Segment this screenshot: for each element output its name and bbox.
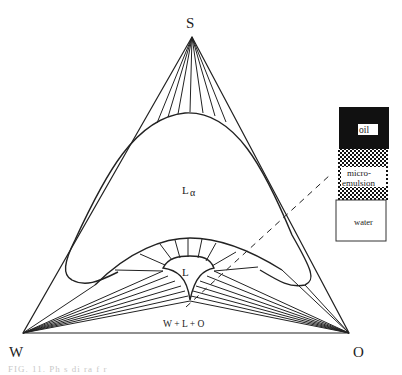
vertex-label-o: O xyxy=(353,344,364,360)
legend-label-oil: oil xyxy=(359,125,369,135)
dashed-pointer-line xyxy=(186,175,330,307)
o-corner-tie-lines xyxy=(190,270,349,333)
vertex-label-w: W xyxy=(9,344,24,360)
region-label-lamellar-subscript: α xyxy=(190,187,196,198)
region-label-microemulsion: L xyxy=(182,266,189,278)
microemulsion-cusp xyxy=(163,256,214,300)
region-label-lamellar: L xyxy=(182,184,189,196)
vertex-label-s: S xyxy=(186,15,194,31)
region-label-three-phase: W + L + O xyxy=(163,319,204,329)
lamellar-lower-left xyxy=(72,272,118,283)
legend-label-micro: micro- xyxy=(347,168,371,178)
legend-label-emulsion: emulsion xyxy=(342,178,375,188)
lamellar-phase-boundary xyxy=(66,113,311,286)
figure-caption: FIG. 11. Ph s di ra f r xyxy=(8,364,107,374)
ternary-phase-diagram: S W O L α L W + L + O oil micro- emulsio… xyxy=(0,0,402,375)
legend-label-water: water xyxy=(354,217,373,227)
